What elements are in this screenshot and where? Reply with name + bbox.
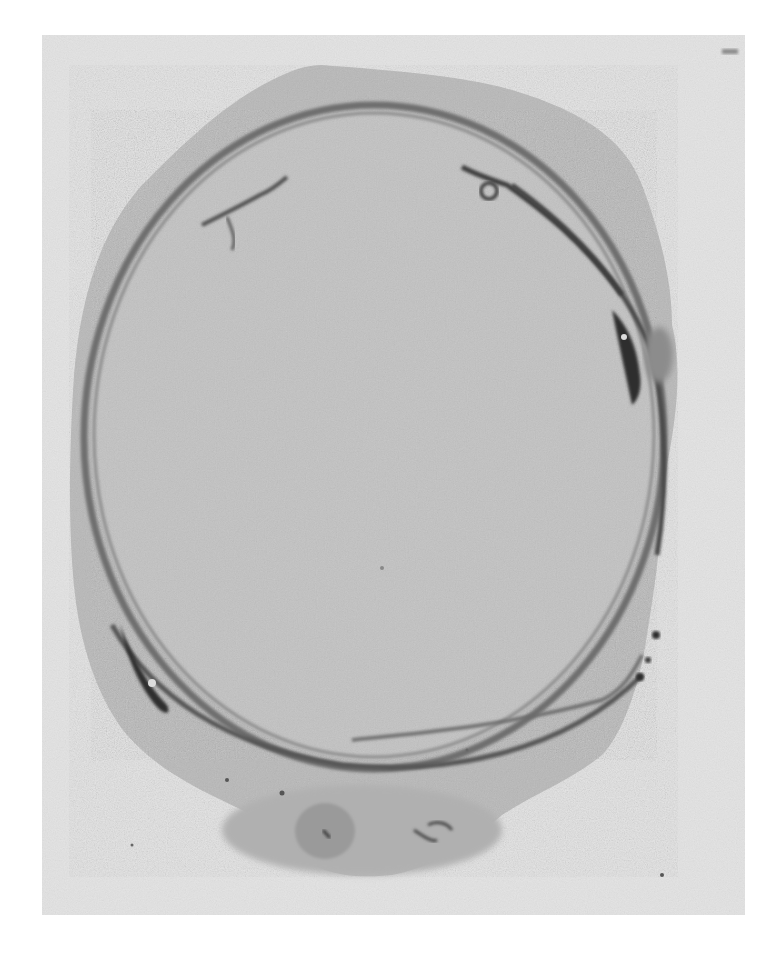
page: [0, 0, 780, 957]
debris-6: [380, 566, 384, 570]
left-bright-spot: [148, 679, 156, 687]
right-bright-spot: [621, 334, 627, 340]
right-cell-cluster: [645, 327, 673, 383]
debris-4: [660, 873, 664, 877]
micrograph-image: [42, 35, 745, 915]
right-lower-dot-2: [645, 657, 651, 663]
debris-2: [225, 778, 229, 782]
debris-1: [280, 791, 285, 796]
corner-mark: [722, 49, 738, 54]
right-lower-dot-1: [652, 631, 660, 639]
micrograph-svg: [42, 35, 745, 915]
right-lower-dot-3: [636, 673, 644, 681]
bottom-tissue-mass: [222, 785, 502, 875]
debris-5: [466, 749, 469, 752]
debris-3: [131, 844, 134, 847]
